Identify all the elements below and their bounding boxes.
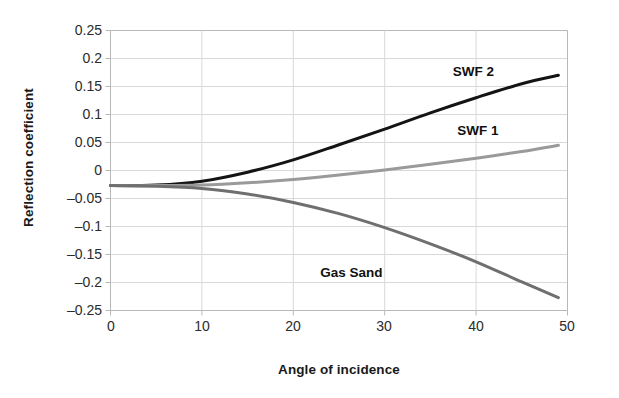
series-label-swf-1: SWF 1 bbox=[457, 123, 498, 138]
series-label-swf-2: SWF 2 bbox=[453, 64, 494, 79]
plot-area bbox=[0, 0, 619, 398]
series-label-gas-sand: Gas Sand bbox=[320, 265, 382, 280]
chart-figure: Reflection coefficient Angle of incidenc… bbox=[0, 0, 619, 398]
